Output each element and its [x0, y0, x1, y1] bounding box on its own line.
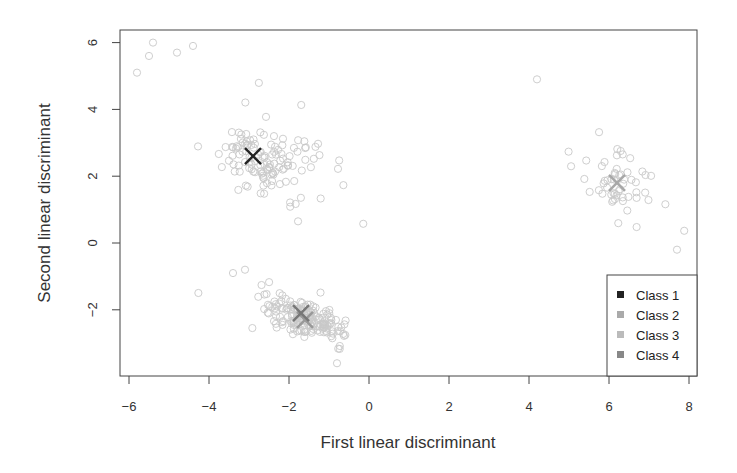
- data-point: [624, 207, 631, 214]
- lda-scatter-plot: −6−4−202468 −20246 First linear discrimi…: [0, 0, 737, 473]
- data-point: [340, 182, 347, 189]
- data-point: [633, 189, 640, 196]
- data-point: [265, 279, 272, 286]
- data-point: [317, 195, 324, 202]
- data-point: [673, 246, 680, 253]
- legend-label: Class 1: [636, 288, 679, 303]
- data-point: [229, 152, 236, 159]
- data-point: [298, 101, 305, 108]
- data-point: [565, 148, 572, 155]
- x-tick-label: 2: [445, 399, 452, 414]
- x-tick-label: 8: [685, 399, 692, 414]
- data-point: [149, 39, 156, 46]
- data-point: [222, 143, 229, 150]
- data-point: [533, 76, 540, 83]
- data-point: [235, 186, 242, 193]
- data-point: [302, 156, 309, 163]
- data-point: [145, 52, 152, 59]
- y-axis: −20246: [85, 39, 120, 317]
- y-tick-label: 0: [85, 239, 100, 246]
- data-point: [230, 161, 237, 168]
- data-point: [229, 269, 236, 276]
- data-point: [291, 177, 298, 184]
- data-point: [294, 218, 301, 225]
- data-point: [632, 179, 639, 186]
- data-point: [310, 155, 317, 162]
- data-point: [218, 163, 225, 170]
- legend-label: Class 3: [636, 328, 679, 343]
- data-point: [645, 196, 652, 203]
- data-point: [255, 293, 262, 300]
- x-tick-label: 4: [525, 399, 532, 414]
- data-point: [133, 69, 140, 76]
- data-point: [627, 155, 634, 162]
- data-point: [328, 333, 335, 340]
- data-point: [282, 178, 289, 185]
- data-point: [270, 133, 277, 140]
- data-point: [581, 175, 588, 182]
- x-axis: −6−4−202468: [122, 376, 693, 414]
- data-point: [336, 157, 343, 164]
- y-axis-label: Second linear discriminant: [35, 103, 54, 303]
- data-point: [195, 289, 202, 296]
- data-point: [235, 129, 242, 136]
- legend: Class 1Class 2Class 3Class 4: [607, 275, 697, 376]
- data-point: [255, 79, 262, 86]
- data-point: [633, 223, 640, 230]
- legend-label: Class 2: [636, 308, 679, 323]
- data-point: [360, 220, 367, 227]
- class-centroids: [245, 148, 625, 328]
- y-tick-label: 4: [85, 106, 100, 113]
- data-point: [262, 113, 269, 120]
- x-tick-label: 6: [605, 399, 612, 414]
- y-tick-label: −2: [85, 302, 100, 317]
- x-tick-label: −2: [282, 399, 297, 414]
- data-point: [586, 188, 593, 195]
- data-point: [228, 128, 235, 135]
- data-point: [215, 150, 222, 157]
- x-axis-label: First linear discriminant: [321, 433, 496, 452]
- x-tick-label: −6: [122, 399, 137, 414]
- x-tick-label: −4: [202, 399, 217, 414]
- data-points: [133, 39, 687, 367]
- data-point: [297, 194, 304, 201]
- data-point: [189, 42, 196, 49]
- data-point: [628, 176, 635, 183]
- data-point: [333, 360, 340, 367]
- data-point: [598, 163, 605, 170]
- data-point: [334, 165, 341, 172]
- data-point: [225, 157, 232, 164]
- data-point: [258, 281, 265, 288]
- data-point: [642, 189, 649, 196]
- data-point: [615, 220, 622, 227]
- data-point: [264, 301, 271, 308]
- data-point: [249, 324, 256, 331]
- data-point: [583, 157, 590, 164]
- y-tick-label: 2: [85, 173, 100, 180]
- y-tick-label: 6: [85, 39, 100, 46]
- data-point: [298, 167, 305, 174]
- data-point: [241, 266, 248, 273]
- data-point: [242, 99, 249, 106]
- data-point: [307, 164, 314, 171]
- data-point: [567, 163, 574, 170]
- data-point: [173, 49, 180, 56]
- data-point: [681, 227, 688, 234]
- x-tick-label: 0: [365, 399, 372, 414]
- data-point: [317, 289, 324, 296]
- legend-label: Class 4: [636, 348, 679, 363]
- data-point: [194, 143, 201, 150]
- data-point: [601, 158, 608, 165]
- data-point: [662, 201, 669, 208]
- data-point: [595, 129, 602, 136]
